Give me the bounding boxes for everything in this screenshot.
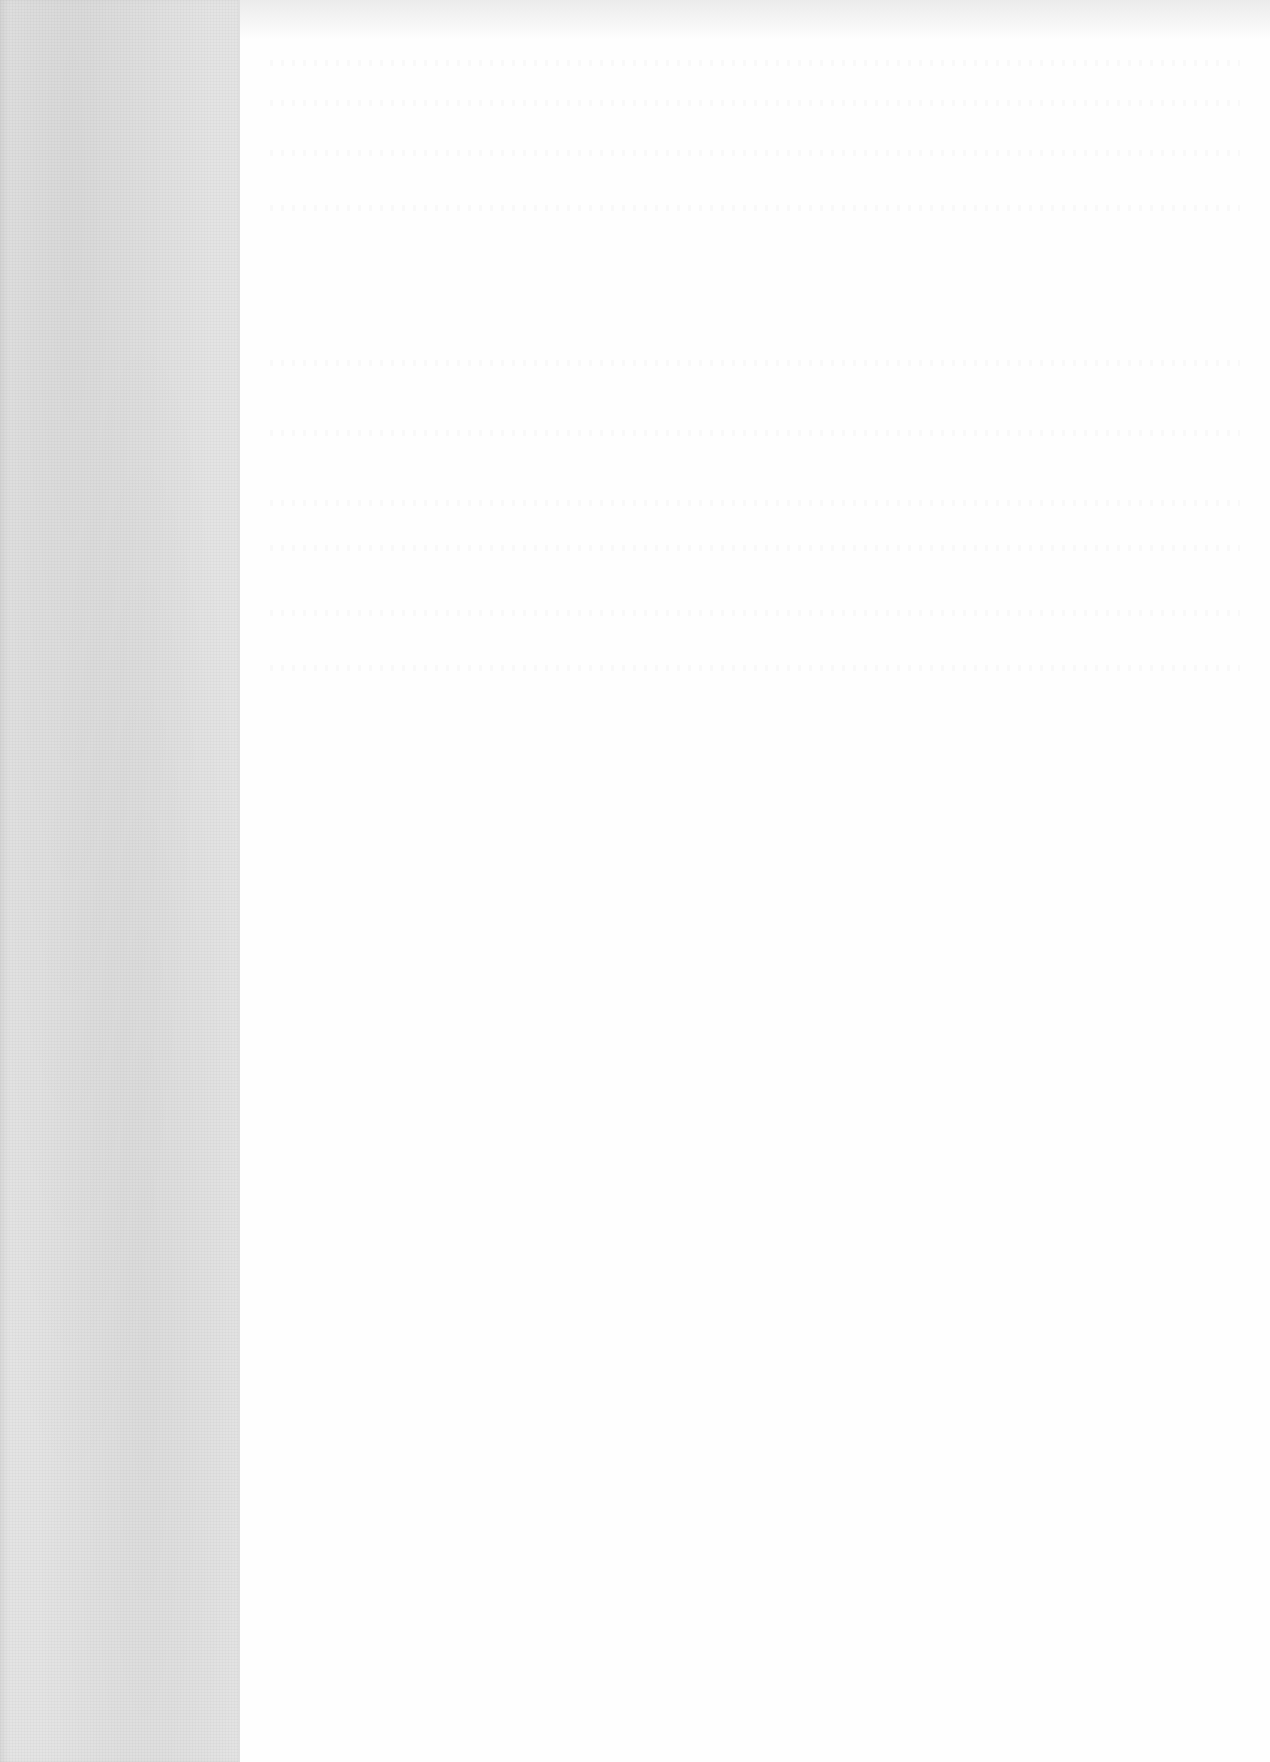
document-page [240,0,1270,1762]
page-body [240,0,1270,1762]
binding-edge-strip [0,0,240,1762]
